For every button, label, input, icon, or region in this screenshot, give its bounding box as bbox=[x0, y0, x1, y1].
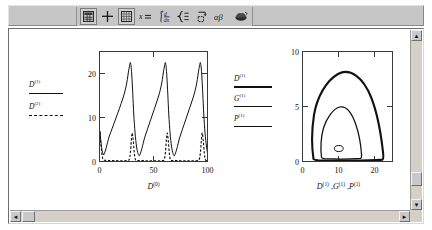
legend-swatch-medium bbox=[234, 106, 272, 107]
legend-label-d1-phase: D(1) bbox=[234, 73, 245, 83]
symbolic-icon[interactable] bbox=[194, 8, 211, 25]
time-series-svg: 0 10 20 0 50 100 D(0) bbox=[71, 43, 216, 198]
y-tick-10-phase: 10 bbox=[291, 48, 299, 57]
matrix-icon[interactable] bbox=[80, 8, 97, 25]
scroll-right-arrow[interactable]: ► bbox=[399, 211, 410, 222]
vertical-scroll-thumb[interactable] bbox=[411, 172, 422, 186]
phase-portrait-svg: 0 5 10 0 10 20 D(1) ,G(1) ,P(1) bbox=[276, 39, 403, 199]
legend-entry-d1: D(1) bbox=[29, 79, 69, 96]
calculus-icon[interactable]: d dx bbox=[156, 8, 173, 25]
x-tick-0: 0 bbox=[98, 166, 102, 175]
legend-entry-p1: P(1) bbox=[234, 113, 278, 130]
scroll-left-arrow[interactable]: ◄ bbox=[10, 211, 21, 222]
x-tick-100: 100 bbox=[202, 166, 214, 175]
x-axis-label-phase: D(1) ,G(1) ,P(1) bbox=[316, 181, 361, 191]
vertical-scrollbar[interactable]: ▲ ▼ bbox=[410, 30, 422, 210]
x-tick-20-phase: 20 bbox=[371, 166, 379, 175]
legend-label-d1: D(1) bbox=[29, 79, 40, 89]
legend-swatch-solid bbox=[29, 93, 63, 94]
svg-text:dx: dx bbox=[164, 17, 170, 23]
legend-label-d2: D(2) bbox=[29, 101, 40, 111]
svg-text:αβ: αβ bbox=[214, 13, 223, 22]
resources-icon[interactable] bbox=[232, 8, 249, 25]
y-tick-5-phase: 5 bbox=[295, 103, 299, 112]
scroll-down-arrow[interactable]: ▼ bbox=[411, 199, 422, 210]
math-toolbar-group: x d dx bbox=[76, 7, 253, 26]
boolean-icon[interactable]: x bbox=[137, 8, 154, 25]
phase-portrait-plot[interactable]: 0 5 10 0 10 20 D(1) ,G(1) ,P(1) bbox=[276, 39, 403, 199]
legend-label-p1: P(1) bbox=[234, 113, 244, 123]
legend-entry-g1: G(1) bbox=[234, 93, 278, 110]
legend-swatch-thin bbox=[234, 126, 272, 127]
y-tick-20: 20 bbox=[88, 70, 96, 79]
math-toolbar: x d dx bbox=[8, 5, 424, 26]
scrollbar-corner bbox=[410, 210, 422, 222]
horizontal-scroll-thumb[interactable] bbox=[22, 211, 35, 222]
scroll-up-arrow[interactable]: ▲ bbox=[411, 30, 422, 41]
x-tick-0-phase: 0 bbox=[301, 166, 305, 175]
greek-icon[interactable]: αβ bbox=[213, 8, 230, 25]
legend-entry-d2: D(2) bbox=[29, 101, 69, 118]
graph-icon[interactable] bbox=[118, 8, 135, 25]
y-tick-0: 0 bbox=[92, 158, 96, 167]
legend-label-g1: G(1) bbox=[234, 93, 245, 103]
legend-swatch-thick bbox=[234, 86, 272, 88]
horizontal-scrollbar[interactable]: ◄ ► bbox=[10, 210, 410, 222]
x-tick-10-phase: 10 bbox=[335, 166, 343, 175]
x-tick-50: 50 bbox=[150, 166, 158, 175]
y-tick-10: 10 bbox=[88, 114, 96, 123]
worksheet-window: D(1) D(2) bbox=[8, 28, 424, 224]
svg-text:x: x bbox=[139, 12, 143, 21]
time-series-plot[interactable]: 0 10 20 0 50 100 D(0) bbox=[71, 43, 216, 198]
time-series-legend: D(1) D(2) bbox=[29, 79, 69, 118]
worksheet-page: D(1) D(2) bbox=[11, 31, 403, 205]
programming-icon[interactable] bbox=[175, 8, 192, 25]
legend-swatch-dashed bbox=[29, 115, 63, 116]
legend-entry-d1-phase: D(1) bbox=[234, 73, 278, 90]
phase-portrait-legend: D(1) G(1) P(1) bbox=[234, 73, 278, 130]
evaluation-icon[interactable] bbox=[99, 8, 116, 25]
screenshot-root: x d dx bbox=[0, 0, 432, 230]
x-axis-label: D(0) bbox=[146, 181, 159, 191]
y-tick-0-phase: 0 bbox=[295, 158, 299, 167]
